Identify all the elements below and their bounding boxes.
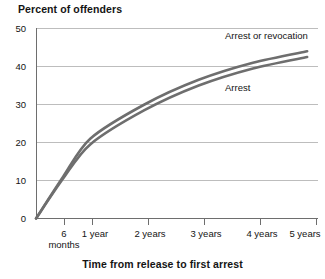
chart-root: Percent of offenders 50 40 30 20 10 0	[0, 0, 325, 279]
series-label-arrest: Arrest	[225, 82, 250, 93]
x-tick-label-6-months-line2: months	[48, 239, 79, 250]
x-tick-label-4-years: 4 years	[246, 228, 277, 239]
series-line-arrest	[36, 57, 307, 219]
series-label-arrest-or-revocation: Arrest or revocation	[225, 30, 308, 41]
series-line-arrest-or-revocation	[36, 51, 307, 218]
x-tick-label-1-year: 1 year	[82, 228, 108, 239]
x-tick-marks	[65, 219, 317, 225]
x-axis-title: Time from release to first arrest	[0, 258, 325, 270]
x-tick-label-6-months: 6 months	[48, 228, 79, 250]
x-tick-label-2-years: 2 years	[134, 228, 165, 239]
x-tick-label-5-years: 5 years	[289, 228, 320, 239]
series-group	[36, 51, 307, 218]
x-tick-label-3-years: 3 years	[190, 228, 221, 239]
x-tick-label-6-months-line1: 6	[61, 228, 66, 239]
